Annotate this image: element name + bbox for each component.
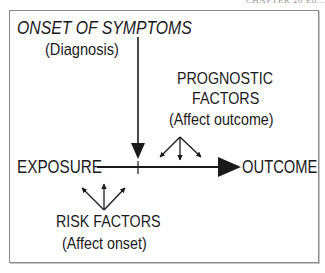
onset-arrow xyxy=(131,37,145,159)
onset-subtitle: (Diagnosis) xyxy=(45,40,119,60)
risk-arrows xyxy=(82,184,125,210)
risk-subtitle: (Affect onset) xyxy=(62,234,147,254)
onset-title: ONSET OF SYMPTOMS xyxy=(17,17,192,39)
timeline-arrow xyxy=(97,157,241,177)
outcome-label: OUTCOME xyxy=(242,157,317,178)
prognostic-arrows xyxy=(160,137,201,160)
prognostic-subtitle: (Affect outcome) xyxy=(169,110,274,130)
exposure-label: EXPOSURE xyxy=(17,157,102,178)
arrow-down-icon xyxy=(131,143,145,159)
prognostic-title-line1: PROGNOSTIC xyxy=(177,69,273,89)
risk-title: RISK FACTORS xyxy=(56,212,160,232)
outcome-arrowhead-icon xyxy=(218,157,241,177)
prognostic-title-line2: FACTORS xyxy=(192,89,259,109)
